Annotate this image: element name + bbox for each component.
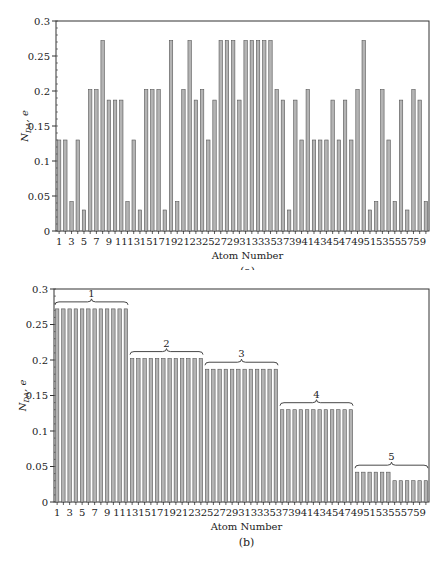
bar-atom-15 — [143, 359, 146, 502]
group-label: 1 — [88, 288, 94, 299]
figure: 00.050.10.150.20.250.3135791113151719212… — [0, 0, 444, 564]
bar-atom-32 — [249, 369, 252, 502]
bar-atom-30 — [237, 369, 240, 502]
x-tick-label: 1 — [54, 507, 60, 518]
bar-atom-43 — [318, 410, 321, 502]
x-tick-label: 17 — [151, 507, 164, 518]
bar-atom-1 — [57, 140, 60, 231]
x-tick-label: 11 — [115, 236, 128, 247]
x-tick-label: 25 — [202, 236, 215, 247]
x-tick-label: 19 — [163, 507, 176, 518]
bar-atom-32 — [250, 41, 253, 231]
bar-atom-40 — [300, 140, 303, 231]
bar-atom-27 — [219, 41, 222, 231]
bar-atom-34 — [263, 41, 266, 231]
x-tick-label: 13 — [126, 507, 139, 518]
x-tick-label: 31 — [239, 236, 252, 247]
x-tick-label: 53 — [376, 236, 389, 247]
bar-atom-13 — [132, 140, 135, 231]
x-tick-label: 49 — [351, 236, 364, 247]
bar-atom-49 — [355, 472, 358, 502]
bar-atom-18 — [162, 359, 165, 502]
y-tick-label: 0.25 — [26, 319, 48, 330]
bar-atom-6 — [88, 90, 91, 231]
bar-atom-26 — [212, 369, 215, 502]
bar-atom-29 — [230, 369, 233, 502]
x-tick-label: 55 — [388, 236, 401, 247]
group-label: 3 — [238, 348, 244, 359]
y-tick-label: 0.3 — [32, 284, 48, 295]
bar-atom-16 — [149, 359, 152, 502]
bar-atom-46 — [337, 410, 340, 502]
bar-atom-38 — [287, 410, 290, 502]
group-label: 2 — [163, 338, 169, 349]
x-tick-label: 5 — [79, 507, 85, 518]
x-tick-label: 53 — [376, 507, 389, 518]
panel-caption: (b) — [239, 536, 255, 549]
bar-atom-12 — [126, 202, 129, 231]
group-label: 5 — [388, 451, 394, 462]
bar-atom-5 — [82, 210, 85, 231]
bar-atom-28 — [225, 41, 228, 231]
y-tick-label: 0.05 — [26, 461, 48, 472]
x-tick-label: 57 — [401, 507, 414, 518]
plot-frame — [54, 289, 429, 502]
bar-atom-16 — [151, 90, 154, 231]
bar-atom-58 — [412, 90, 415, 231]
bar-atom-43 — [318, 140, 321, 231]
bar-atom-57 — [406, 210, 409, 231]
bar-atom-46 — [337, 140, 340, 231]
x-tick-label: 51 — [363, 507, 376, 518]
bar-atom-51 — [368, 210, 371, 231]
bar-atom-17 — [157, 90, 160, 231]
x-tick-label: 7 — [91, 507, 97, 518]
x-tick-label: 9 — [104, 507, 110, 518]
bar-atom-59 — [418, 100, 421, 231]
bar-atom-41 — [305, 410, 308, 502]
bar-atom-10 — [112, 309, 115, 502]
bar-atom-48 — [349, 410, 352, 502]
bar-atom-11 — [120, 100, 123, 231]
group-label: 4 — [313, 389, 319, 400]
bar-atom-35 — [269, 41, 272, 231]
bar-atom-49 — [356, 90, 359, 231]
bar-atom-9 — [107, 100, 110, 231]
x-tick-label: 33 — [251, 507, 264, 518]
x-tick-label: 9 — [106, 236, 112, 247]
bar-atom-47 — [343, 100, 346, 231]
chart-a-bar-chart: 00.050.10.150.20.250.3135791113151719212… — [0, 0, 444, 270]
bar-atom-12 — [124, 309, 127, 502]
bar-atom-11 — [118, 309, 121, 502]
group-brace — [280, 400, 353, 406]
plot-frame — [56, 21, 429, 231]
x-tick-label: 35 — [263, 507, 276, 518]
x-tick-label: 27 — [213, 507, 226, 518]
bar-atom-23 — [194, 100, 197, 231]
x-tick-label: 13 — [127, 236, 140, 247]
x-tick-label: 23 — [188, 507, 201, 518]
bar-atom-19 — [168, 359, 171, 502]
x-tick-label: 25 — [201, 507, 214, 518]
x-tick-label: 15 — [138, 507, 151, 518]
bar-atom-39 — [293, 410, 296, 502]
bar-atom-42 — [312, 140, 315, 231]
bar-atom-8 — [101, 41, 104, 231]
x-tick-label: 29 — [226, 507, 239, 518]
x-tick-label: 43 — [313, 507, 326, 518]
bar-atom-22 — [188, 41, 191, 231]
bar-atom-54 — [387, 472, 390, 502]
bar-atom-37 — [280, 410, 283, 502]
bar-atom-50 — [362, 41, 365, 231]
bar-atom-19 — [169, 41, 172, 231]
group-brace — [130, 349, 203, 355]
x-tick-label: 57 — [401, 236, 414, 247]
x-tick-label: 33 — [252, 236, 265, 247]
y-tick-label: 0.2 — [34, 86, 50, 97]
bar-atom-18 — [163, 210, 166, 231]
x-tick-label: 45 — [326, 507, 339, 518]
x-tick-label: 19 — [165, 236, 178, 247]
x-axis-label: Atom Number — [211, 250, 284, 261]
bar-atom-26 — [213, 100, 216, 231]
bar-atom-55 — [393, 202, 396, 231]
bar-atom-57 — [405, 481, 408, 502]
